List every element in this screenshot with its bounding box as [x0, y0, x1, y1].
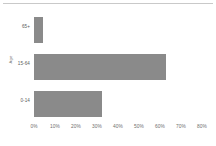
y-tick-label-0-14: 0-14 — [0, 98, 30, 103]
bar-0-14 — [34, 91, 102, 117]
bar-15-64 — [34, 54, 166, 80]
table-row — [34, 17, 43, 43]
y-tick-label-65-plus: 65+ — [0, 24, 30, 29]
bar-65-plus — [34, 17, 43, 43]
x-tick-label: 80% — [189, 124, 215, 129]
table-row — [34, 91, 102, 117]
table-row — [34, 54, 166, 80]
figure-top-rule — [3, 3, 213, 4]
y-tick-label-15-64: 15-64 — [0, 61, 30, 66]
plot-area — [34, 11, 202, 118]
x-axis-tick-labels: 0% 10% 20% 30% 40% 50% 60% 70% 80% — [0, 124, 216, 134]
bar-chart: Age 65+ 15-64 0-14 0% 10% 20% 30% 40% 50… — [0, 0, 216, 146]
y-axis-title: Age — [8, 46, 13, 74]
